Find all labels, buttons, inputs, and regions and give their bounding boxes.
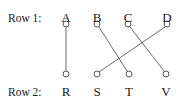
graph-edge-d-s bbox=[99, 27, 165, 72]
nodes-group bbox=[63, 21, 170, 77]
graph-node-s bbox=[94, 71, 100, 77]
edges-group bbox=[66, 27, 165, 72]
node-label-t: T bbox=[119, 85, 139, 98]
node-label-s: S bbox=[87, 85, 107, 98]
node-label-a: A bbox=[56, 11, 76, 24]
graph-edge-c-v bbox=[130, 27, 164, 71]
node-label-b: B bbox=[87, 11, 107, 24]
graph-node-t bbox=[126, 71, 132, 77]
graph-node-v bbox=[163, 71, 169, 77]
graph-node-r bbox=[63, 71, 69, 77]
row-label-row-2: Row 2: bbox=[8, 86, 42, 98]
bipartite-graph-figure: Row 1:Row 2: ABCDRSTV bbox=[0, 0, 183, 106]
graph-edge-b-t bbox=[99, 27, 127, 71]
row-label-row-1: Row 1: bbox=[8, 12, 42, 24]
node-label-d: D bbox=[157, 11, 177, 24]
node-label-v: V bbox=[156, 85, 176, 98]
node-label-c: C bbox=[118, 11, 138, 24]
node-label-r: R bbox=[56, 85, 76, 98]
